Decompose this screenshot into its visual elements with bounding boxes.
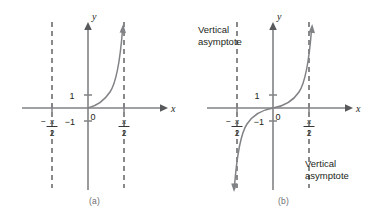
tangent-curve-right-branch bbox=[88, 30, 123, 108]
panel-a-caption: (a) bbox=[0, 196, 189, 206]
x-tick-neg-sign: − bbox=[41, 116, 46, 126]
x-axis-arrowhead-icon bbox=[345, 104, 353, 112]
x-tick-label-neg-pi-over-2: − π 2 bbox=[41, 116, 58, 138]
y-axis-label: y bbox=[91, 11, 97, 22]
panel-a: x y 0 1 −1 − π 2 π 2 (a) bbox=[0, 0, 189, 221]
x-tick-label-neg-pi-over-2: − π 2 bbox=[226, 116, 243, 138]
x-tick-denominator-2: 2 bbox=[307, 128, 312, 138]
x-tick-numerator-pi: π bbox=[307, 117, 312, 126]
x-tick-denominator-2: 2 bbox=[50, 128, 55, 138]
y-axis-arrowhead-icon bbox=[269, 22, 277, 30]
origin-label: 0 bbox=[91, 112, 96, 122]
x-tick-label-pi-over-2: π 2 bbox=[304, 117, 315, 138]
x-tick-numerator-pi: π bbox=[50, 117, 55, 126]
x-axis-label: x bbox=[355, 103, 361, 114]
y-tick-label-1: 1 bbox=[254, 91, 259, 101]
y-axis-arrowhead-icon bbox=[84, 22, 92, 30]
curve-top-arrowhead-icon bbox=[120, 24, 126, 33]
origin-label: 0 bbox=[276, 112, 281, 122]
x-tick-denominator-2: 2 bbox=[235, 128, 240, 138]
x-tick-numerator-pi: π bbox=[122, 117, 127, 126]
x-tick-denominator-2: 2 bbox=[122, 128, 127, 138]
x-tick-neg-sign: − bbox=[226, 116, 231, 126]
x-axis-arrowhead-icon bbox=[160, 104, 168, 112]
x-tick-label-pi-over-2: π 2 bbox=[119, 117, 130, 138]
x-tick-numerator-pi: π bbox=[235, 117, 240, 126]
panel-b-caption: (b) bbox=[189, 196, 378, 206]
panel-b: x y 0 1 −1 − π 2 π 2 Vertical asymptote … bbox=[189, 0, 378, 221]
y-tick-label-1: 1 bbox=[69, 91, 74, 101]
vertical-asymptote-label-bottom-right: Vertical asymptote bbox=[305, 158, 349, 181]
vertical-asymptote-label-top-left: Vertical asymptote bbox=[198, 24, 242, 47]
figure-root: x y 0 1 −1 − π 2 π 2 (a) bbox=[0, 0, 378, 221]
y-axis-label: y bbox=[276, 11, 282, 22]
x-axis-label: x bbox=[170, 103, 176, 114]
panel-a-graph: x y 0 1 −1 − π 2 π 2 bbox=[0, 0, 189, 221]
y-tick-label-neg1: −1 bbox=[254, 117, 264, 127]
y-tick-label-neg1: −1 bbox=[65, 117, 75, 127]
